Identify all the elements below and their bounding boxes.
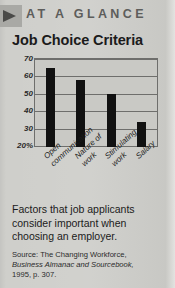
source-line-1: Source: The Changing Workforce, <box>12 250 164 260</box>
x-axis-labels: OpencommunicationNature ofworkStimulatin… <box>0 152 175 202</box>
bar <box>46 68 55 146</box>
y-axis-tick-label: 60 <box>24 71 33 80</box>
chart-title: Job Choice Criteria <box>12 32 143 48</box>
bar <box>107 94 116 146</box>
y-axis-tick-label: 30 <box>24 123 33 132</box>
source-citation: Source: The Changing Workforce, Business… <box>12 250 164 281</box>
header-kicker: AT A GLANCE <box>26 7 147 21</box>
triangle-right-icon <box>0 5 22 27</box>
y-axis-tick-label: 70 <box>24 54 33 63</box>
y-axis-tick-label: 20% <box>17 141 33 150</box>
card-header: AT A GLANCE <box>0 4 175 30</box>
source-line-2: Business Almanac and Sourcebook, <box>12 260 164 270</box>
source-line-3: 1995, p. 307. <box>12 270 164 280</box>
y-axis-tick-label: 50 <box>24 88 33 97</box>
chart-caption: Factors that job applicants consider imp… <box>12 203 162 244</box>
y-axis-tick-label: 40 <box>24 106 33 115</box>
y-axis-labels: 706050403020% <box>8 55 33 150</box>
at-a-glance-card: AT A GLANCE Job Choice Criteria 70605040… <box>0 0 175 288</box>
gridline <box>35 59 157 60</box>
